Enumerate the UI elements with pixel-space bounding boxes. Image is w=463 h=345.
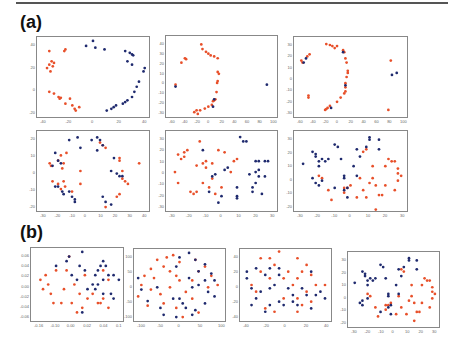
- x-tick-label: 0: [284, 323, 286, 328]
- x-tick-label: -40: [310, 119, 316, 124]
- blue-point: [101, 195, 104, 198]
- red-point: [415, 311, 418, 314]
- x-tick-label: 10: [236, 213, 240, 218]
- red-point: [193, 111, 196, 114]
- red-point: [421, 302, 424, 305]
- y-tick-label: -50: [126, 299, 132, 304]
- x-axis-ticks-a5: -30-20-100102030: [165, 213, 278, 219]
- red-point: [400, 268, 403, 271]
- blue-point: [62, 193, 65, 196]
- y-tick-label: -10: [286, 87, 292, 92]
- blue-point: [251, 186, 254, 189]
- blue-point: [51, 164, 54, 167]
- red-point: [48, 63, 51, 66]
- red-point: [64, 185, 67, 188]
- red-point: [201, 48, 204, 51]
- red-point: [397, 172, 400, 175]
- red-point: [217, 149, 220, 152]
- x-tick-label: -40: [182, 119, 188, 124]
- x-tick-label: -20: [263, 323, 269, 328]
- x-tick-label: 20: [220, 119, 224, 124]
- blue-point: [318, 165, 321, 168]
- red-point: [183, 151, 186, 154]
- blue-point: [267, 160, 270, 163]
- red-point: [39, 278, 42, 281]
- blue-point: [107, 274, 110, 277]
- blue-point: [314, 153, 317, 156]
- y-tick-label: -10: [158, 90, 164, 95]
- x-tick-label: 60: [374, 119, 378, 124]
- blue-point: [112, 274, 115, 277]
- red-point: [264, 307, 267, 310]
- y-tick-label: 20: [288, 150, 292, 155]
- red-point: [76, 311, 79, 314]
- blue-point: [255, 267, 258, 270]
- blue-point: [94, 46, 97, 49]
- red-point: [397, 179, 400, 182]
- red-point: [434, 293, 437, 296]
- blue-point: [264, 274, 267, 277]
- x-tick-label: -20: [66, 119, 72, 124]
- red-point: [307, 94, 310, 97]
- blue-point: [340, 158, 343, 161]
- x-tick-label: -10: [69, 213, 75, 218]
- blue-point: [361, 304, 364, 307]
- red-point: [159, 293, 162, 296]
- red-point: [387, 109, 390, 112]
- red-point: [365, 148, 368, 151]
- red-point: [321, 177, 324, 180]
- red-point: [220, 186, 223, 189]
- blue-point: [359, 155, 362, 158]
- scatter-plot-a5: [165, 130, 278, 212]
- red-point: [259, 270, 262, 273]
- red-point: [172, 254, 175, 257]
- scatter-plot-a6: [293, 130, 408, 212]
- red-point: [207, 105, 210, 108]
- x-tick-label: 0: [392, 329, 394, 334]
- red-point: [308, 53, 311, 56]
- y-axis-ticks-a5: 3020100-10-20-30: [155, 130, 164, 212]
- red-point: [137, 295, 140, 298]
- red-point: [195, 164, 198, 167]
- blue-point: [71, 195, 74, 198]
- y-tick-label: 10: [342, 282, 346, 287]
- blue-point: [378, 148, 381, 151]
- y-tick-label: 20: [342, 270, 346, 275]
- red-point: [301, 270, 304, 273]
- red-point: [405, 313, 408, 316]
- blue-point: [314, 155, 317, 158]
- red-point: [185, 58, 188, 61]
- y-tick-label: -10: [286, 190, 292, 195]
- blue-point: [178, 297, 181, 300]
- red-point: [387, 158, 390, 161]
- red-point: [156, 258, 159, 261]
- red-point: [49, 70, 52, 73]
- red-point: [191, 279, 194, 282]
- blue-point: [314, 182, 317, 185]
- y-axis-ticks-a1: 40200-20: [26, 36, 35, 118]
- red-point: [355, 196, 358, 199]
- blue-point: [327, 158, 330, 161]
- red-point: [216, 82, 219, 85]
- blue-point: [257, 175, 260, 178]
- red-point: [296, 297, 299, 300]
- blue-point: [242, 140, 245, 143]
- blue-point: [101, 144, 104, 147]
- red-point: [324, 284, 327, 287]
- blue-point: [287, 287, 290, 290]
- y-axis-ticks-b1: 0.060.040.020.00-0.02-0.04-0.06: [20, 247, 29, 322]
- blue-point: [105, 109, 108, 112]
- blue-point: [99, 265, 102, 268]
- red-point: [428, 279, 431, 282]
- x-tick-label: -10: [331, 213, 337, 218]
- x-tick-label: 0.1: [116, 323, 122, 328]
- blue-point: [133, 90, 136, 93]
- blue-point: [54, 185, 57, 188]
- blue-point: [78, 265, 81, 268]
- blue-point: [246, 277, 249, 280]
- blue-point: [126, 60, 129, 63]
- blue-point: [223, 169, 226, 172]
- red-point: [393, 189, 396, 192]
- red-point: [345, 61, 348, 64]
- blue-point: [330, 107, 333, 110]
